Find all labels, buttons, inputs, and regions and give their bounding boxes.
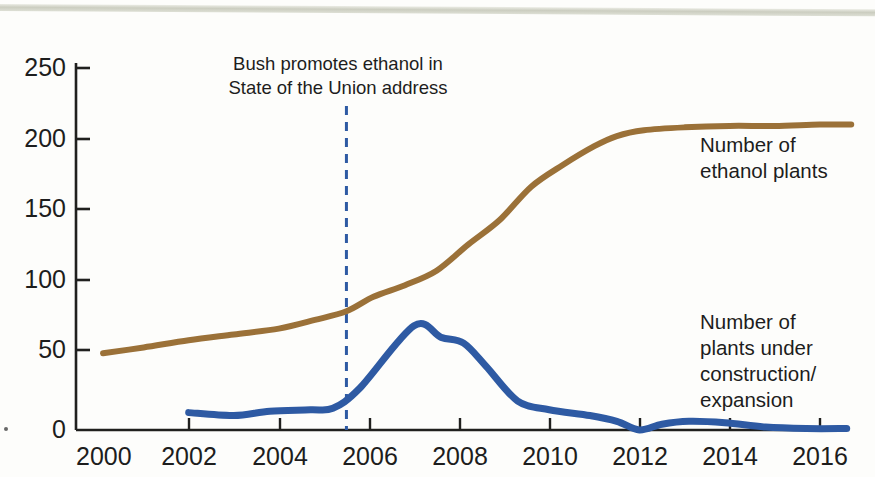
x-tick-label-2006: 2006 [342, 442, 398, 470]
x-tick-label-2008: 2008 [432, 442, 488, 470]
y-tick-label-200: 200 [24, 124, 66, 152]
series-label-plants-under-construction: Number of plants under construction/ exp… [700, 310, 817, 411]
series-label-construction-line-2: plants under [700, 336, 813, 359]
series-label-construction-line-3: construction/ [700, 362, 817, 385]
x-tick-label-2004: 2004 [252, 442, 308, 470]
y-tick-labels: 250 200 150 100 50 0 [24, 53, 66, 443]
series-label-ethanol-plants: Number of ethanol plants [700, 133, 828, 182]
x-tick-label-2014: 2014 [702, 442, 758, 470]
y-tick-label-50: 50 [38, 335, 66, 363]
y-tick-label-250: 250 [24, 53, 66, 81]
x-tick-labels: 2000 2002 2004 2006 2008 2010 2012 2014 … [76, 442, 848, 470]
y-tick-label-100: 100 [24, 265, 66, 293]
y-axis [76, 63, 90, 430]
chart-figure: 250 200 150 100 50 0 2000 2002 2004 2006… [0, 0, 875, 477]
y-tick-label-0: 0 [52, 415, 66, 443]
x-tick-label-2010: 2010 [522, 442, 578, 470]
line-chart-canvas: 250 200 150 100 50 0 2000 2002 2004 2006… [0, 0, 875, 477]
scan-artifact-speck [4, 427, 8, 431]
series-label-ethanol-plants-line-1: Number of [700, 133, 796, 156]
series-label-construction-line-1: Number of [700, 310, 796, 333]
annotation-line-2: State of the Union address [228, 77, 447, 98]
x-tick-label-2012: 2012 [612, 442, 668, 470]
series-label-construction-line-4: expansion [700, 388, 793, 411]
bush-ethanol-annotation: Bush promotes ethanol in State of the Un… [228, 53, 447, 430]
y-tick-label-150: 150 [24, 194, 66, 222]
x-tick-label-2000: 2000 [76, 442, 132, 470]
x-tick-label-2016: 2016 [792, 442, 848, 470]
annotation-line-1: Bush promotes ethanol in [233, 53, 443, 74]
series-label-ethanol-plants-line-2: ethanol plants [700, 159, 828, 182]
x-tick-label-2002: 2002 [161, 442, 217, 470]
